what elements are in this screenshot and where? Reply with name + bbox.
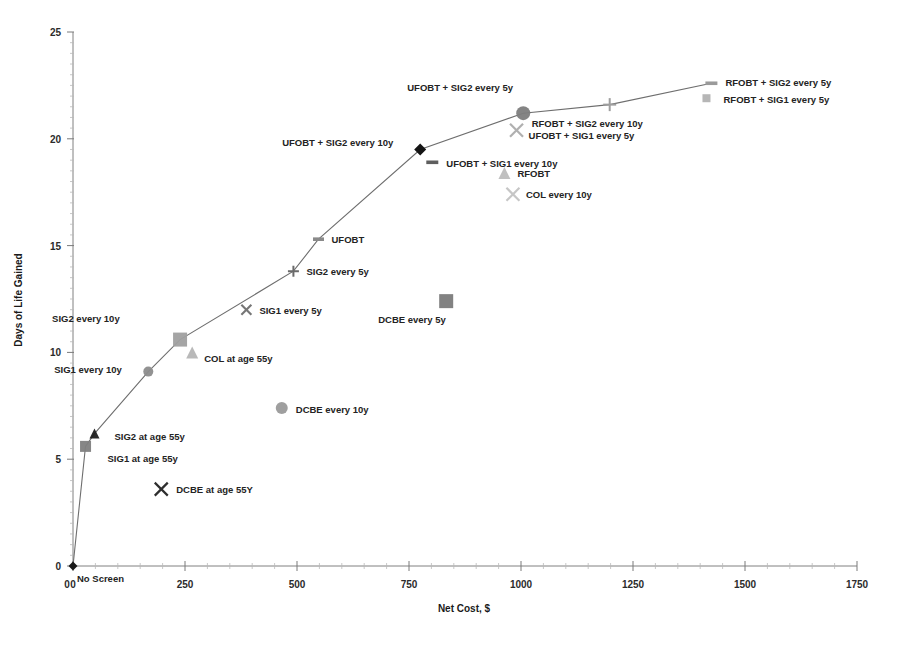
x-axis-title: Net Cost, $ [438, 603, 491, 614]
y-tick-label: 15 [50, 241, 62, 252]
point-label-sig1-every-10y: SIG1 every 10y [54, 364, 122, 375]
y-axis-title: Days of Life Gained [13, 253, 24, 346]
data-point-sig1-every-5y [241, 305, 251, 315]
point-label-dcbe-at-age-55y: DCBE at age 55Y [176, 484, 253, 495]
point-label-rfobt: RFOBT [517, 168, 550, 179]
data-point-sig1-at-age-55y [80, 441, 91, 452]
axis-titles-group: Net Cost, $ Days of Life Gained [13, 253, 491, 614]
data-point-no-screen [69, 562, 78, 571]
data-point-ufobt-sig1-every-10y [426, 160, 438, 164]
data-point-ufobt [313, 237, 324, 241]
point-label-sig2-every-10y: SIG2 every 10y [52, 313, 120, 324]
data-point-dcbe-every-10y [276, 402, 288, 414]
x-tick-label: 0 [70, 579, 76, 590]
point-label-sig2-every-5y: SIG2 every 5y [306, 266, 369, 277]
point-label-dcbe-every-5y: DCBE every 5y [378, 314, 446, 325]
data-point-sig2-every-5y [288, 266, 299, 277]
data-points-group [69, 81, 718, 570]
x-tick-label: 500 [289, 579, 306, 590]
data-point-ufobt-sig1-every-5y [510, 124, 523, 137]
data-point-col-at-age-55y [186, 346, 198, 358]
axes-group: 0250500750100012501500175005101520250 [50, 27, 869, 590]
point-label-rfobt-sig2-every-10y: RFOBT + SIG2 every 10y [532, 118, 644, 129]
data-point-dcbe-at-age-55y [155, 483, 168, 496]
point-label-rfobt-sig2-every-5y: RFOBT + SIG2 every 5y [725, 77, 832, 88]
x-tick-label: 1250 [622, 579, 645, 590]
data-point-dcbe-every-5y [439, 294, 453, 308]
point-label-dcbe-every-10y: DCBE every 10y [296, 404, 370, 415]
y-tick-label: 25 [50, 27, 62, 38]
point-label-ufobt: UFOBT [332, 234, 365, 245]
y-tick-label: 20 [50, 134, 62, 145]
point-label-ufobt-sig2-every-5y: UFOBT + SIG2 every 5y [407, 82, 514, 93]
data-point-sig1-every-10y [143, 367, 153, 377]
y-tick-label: 10 [50, 347, 62, 358]
point-label-sig2-at-age-55y: SIG2 at age 55y [115, 431, 186, 442]
data-point-rfobt-sig1-every-5y [702, 94, 710, 102]
x-tick-label: 750 [401, 579, 418, 590]
scatter-plot: 0250500750100012501500175005101520250 No… [0, 0, 911, 645]
y-tick-label: 5 [55, 454, 61, 465]
point-label-ufobt-sig2-every-10y: UFOBT + SIG2 every 10y [282, 137, 394, 148]
data-point-ufobt-sig2-every-5y [516, 106, 530, 120]
point-label-col-every-10y: COL every 10y [526, 189, 593, 200]
point-label-ufobt-sig1-every-5y: UFOBT + SIG1 every 5y [529, 130, 636, 141]
origin-zero-label: 0 [64, 579, 70, 590]
point-label-no-screen: No Screen [77, 573, 124, 584]
data-point-col-every-10y [506, 188, 519, 201]
x-tick-label: 1000 [510, 579, 533, 590]
y-tick-label: 0 [55, 561, 61, 572]
point-label-col-at-age-55y: COL at age 55y [204, 353, 273, 364]
chart-container: 0250500750100012501500175005101520250 No… [0, 0, 911, 645]
data-point-rfobt-sig2-every-5y [705, 81, 717, 85]
data-point-sig2-every-10y [173, 333, 187, 347]
x-tick-label: 1750 [846, 579, 869, 590]
data-point-rfobt-sig2-every-10y [603, 98, 616, 111]
x-tick-label: 1500 [734, 579, 757, 590]
point-label-sig1-every-5y: SIG1 every 5y [259, 305, 322, 316]
x-tick-label: 250 [177, 579, 194, 590]
data-point-labels-group: No ScreenSIG1 at age 55ySIG2 at age 55yS… [52, 77, 832, 584]
point-label-rfobt-sig1-every-5y: RFOBT + SIG1 every 5y [723, 94, 830, 105]
point-label-sig1-at-age-55y: SIG1 at age 55y [108, 453, 179, 464]
